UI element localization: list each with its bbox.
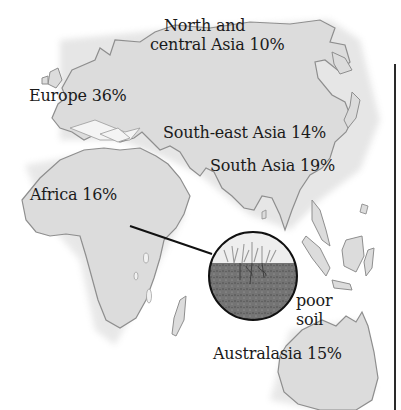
lake-victoria	[144, 253, 149, 263]
label-australasia: Australasia 15%	[213, 344, 342, 364]
lake-malawi	[147, 289, 152, 303]
philippines	[360, 204, 368, 214]
region-map: North and central Asia 10% Europe 36% So…	[0, 0, 401, 410]
borneo	[342, 236, 364, 272]
label-africa: Africa 16%	[30, 185, 117, 205]
sri-lanka	[262, 210, 266, 219]
lake-tanganyika	[134, 272, 138, 280]
soil-cross-section-icon	[205, 232, 305, 323]
page-divider-line	[394, 64, 396, 410]
ireland	[42, 76, 48, 84]
label-north-central-asia-line1: North and	[164, 16, 245, 36]
java	[332, 280, 352, 290]
label-north-central-asia-line2: central Asia 10%	[150, 35, 284, 55]
label-europe: Europe 36%	[29, 86, 127, 106]
sulawesi	[364, 248, 374, 276]
label-poor-line1: poor	[296, 291, 332, 311]
madagascar	[172, 296, 186, 336]
label-south-asia: South Asia 19%	[210, 156, 335, 176]
british-isles	[48, 68, 62, 88]
label-poor-line2: soil	[296, 310, 323, 330]
label-southeast-asia: South-east Asia 14%	[163, 123, 326, 143]
malay-peninsula	[312, 200, 330, 246]
